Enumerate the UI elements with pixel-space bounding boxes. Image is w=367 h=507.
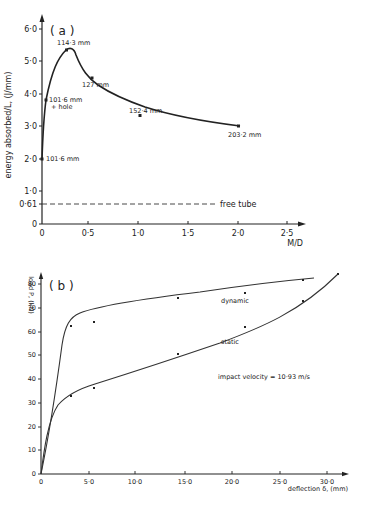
point-203-2 [237, 125, 240, 128]
static-label: static [221, 338, 239, 346]
xtick-a-2: 2·0 [232, 229, 245, 238]
point-101-6-hole [45, 99, 48, 102]
stat-pt-2 [93, 387, 95, 389]
y-axis-arrow-a [40, 14, 45, 22]
panel-label-a: ( a ) [50, 24, 74, 38]
xtick-b-10: 10·0 [128, 478, 142, 486]
xtick-b-0: 0 [39, 478, 43, 486]
stat-pt-1 [70, 395, 72, 397]
x-axis-label-b: deflection δ, (mm) [288, 485, 348, 493]
xtick-a-05: 0·5 [82, 229, 95, 238]
stat-pt-3 [177, 353, 179, 355]
ytick-b-50: 50 [28, 351, 36, 359]
ytick-b-20: 20 [28, 423, 36, 431]
ytick-b-0: 0 [32, 470, 36, 478]
xtick-a-15: 1·5 [182, 229, 195, 238]
point-114-3 [65, 49, 68, 52]
stat-pt-4 [244, 326, 246, 328]
x-axis-arrow-a [298, 222, 306, 227]
chart-a: 0 0·61 1·0 2·0 3·0 4·0 5·0 6·0 0 0·5 1·0… [4, 14, 306, 248]
xtick-b-15: 15·0 [178, 478, 192, 486]
x-axis-arrow-b [342, 472, 349, 476]
dyn-pt-5 [302, 279, 304, 281]
ytick-a-6: 6·0 [24, 25, 37, 34]
ytick-a-5: 5·0 [24, 57, 37, 66]
label-127: 127 mm [82, 81, 109, 89]
label-hole: + hole [51, 103, 72, 111]
x-axis-label-a: M/D [287, 239, 303, 248]
y-axis-label-a: energy absorbed/L, (J/mm) [4, 72, 13, 179]
ytick-a-2: 2·0 [24, 155, 37, 164]
chart-b: 0 10 20 30 40 50 60 70 80 0 5·0 10·0 15·… [27, 272, 349, 493]
dyn-pt-4 [244, 292, 246, 294]
y-axis-arrow-b [39, 272, 43, 279]
point-101-6 [41, 158, 44, 161]
ytick-b-40: 40 [28, 375, 36, 383]
label-114-3: 114·3 mm [57, 39, 90, 47]
xtick-a-1: 1·0 [132, 229, 145, 238]
y-axis-label-b: load P, (kN) [27, 276, 35, 314]
stat-pt-6 [337, 273, 339, 275]
label-152-4: 152·4 mm [129, 107, 162, 115]
ytick-a-4: 4·0 [24, 90, 37, 99]
free-tube-label: free tube [220, 200, 257, 209]
ytick-a-061: 0·61 [19, 200, 37, 209]
dyn-pt-2 [93, 321, 95, 323]
ytick-a-1: 1·0 [24, 187, 37, 196]
xtick-b-5: 5·0 [84, 478, 94, 486]
figure: 0 0·61 1·0 2·0 3·0 4·0 5·0 6·0 0 0·5 1·0… [0, 0, 367, 507]
ytick-a-0: 0 [32, 220, 37, 229]
label-203-2: 203·2 mm [228, 131, 261, 139]
xtick-a-0: 0 [39, 229, 44, 238]
velocity-annotation: impact velocity = 10·93 m/s [218, 373, 311, 381]
point-127 [91, 77, 94, 80]
dyn-pt-3 [177, 297, 179, 299]
ytick-a-3: 3·0 [24, 122, 37, 131]
ytick-b-30: 30 [28, 399, 36, 407]
dyn-pt-1 [70, 325, 72, 327]
xtick-a-25: 2·5 [281, 229, 294, 238]
panel-label-b: ( b ) [49, 279, 74, 293]
label-101-6: 101·6 mm [46, 155, 79, 163]
xtick-b-25: 25·0 [273, 478, 287, 486]
ytick-b-10: 10 [28, 446, 36, 454]
dynamic-label: dynamic [221, 297, 249, 305]
ytick-b-60: 60 [28, 328, 36, 336]
stat-pt-5 [302, 300, 304, 302]
xtick-b-20: 20·0 [225, 478, 239, 486]
